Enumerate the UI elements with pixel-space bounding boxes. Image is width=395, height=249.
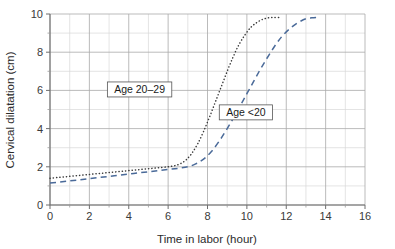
y-tick-label: 6 xyxy=(37,84,43,96)
y-tick-label: 8 xyxy=(37,46,43,58)
x-tick-label: 8 xyxy=(204,210,210,222)
series-annotation-1: Age 20–29 xyxy=(107,82,171,97)
y-tick-label: 10 xyxy=(31,8,43,20)
y-tick-label: 2 xyxy=(37,161,43,173)
x-tick-label: 4 xyxy=(126,210,132,222)
x-tick-label: 6 xyxy=(165,210,171,222)
series-annotation-labels: Age 20–29Age <20 xyxy=(107,82,272,120)
x-tick-label: 0 xyxy=(47,210,53,222)
y-axis-tick-labels: 0246810 xyxy=(31,8,43,211)
series-annotation-2: Age <20 xyxy=(219,105,272,120)
x-axis-title: Time in labor (hour) xyxy=(157,233,257,245)
cervical-dilatation-line-chart: 0246810121416 0246810 Age 20–29Age <20 T… xyxy=(0,0,395,249)
x-tick-label: 10 xyxy=(241,210,253,222)
y-tick-label: 0 xyxy=(37,199,43,211)
data-series-curves xyxy=(50,17,318,183)
y-tick-label: 4 xyxy=(37,123,43,135)
chart-container: 0246810121416 0246810 Age 20–29Age <20 T… xyxy=(0,0,395,249)
y-axis-title: Cervical dilatation (cm) xyxy=(4,51,16,168)
x-tick-label: 12 xyxy=(280,210,292,222)
series-curve-1 xyxy=(50,17,280,178)
series-annotation-text-1: Age 20–29 xyxy=(114,83,165,95)
series-curve-2 xyxy=(50,17,318,183)
x-tick-label: 16 xyxy=(359,210,371,222)
axis-tick-marks xyxy=(46,14,365,209)
series-annotation-text-2: Age <20 xyxy=(226,106,266,118)
x-axis-tick-labels: 0246810121416 xyxy=(47,210,371,222)
x-tick-label: 14 xyxy=(320,210,332,222)
x-tick-label: 2 xyxy=(86,210,92,222)
